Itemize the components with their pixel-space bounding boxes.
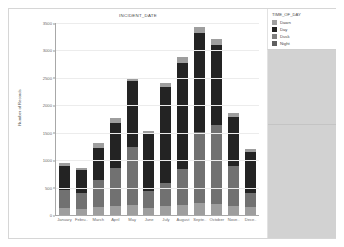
bar-segment-dawn[interactable] bbox=[110, 206, 121, 215]
gridline bbox=[56, 105, 259, 106]
legend-title: TIME_OF_DAY bbox=[272, 12, 332, 17]
bar-segment-day[interactable] bbox=[160, 87, 171, 182]
x-axis-tick-label: October bbox=[208, 217, 225, 222]
bar-segment-dawn[interactable] bbox=[194, 203, 205, 215]
gridline bbox=[56, 78, 259, 79]
viz-canvas: INCIDENT_DATE Number of Records 35003000… bbox=[0, 0, 344, 247]
bar-segment-night[interactable] bbox=[143, 191, 154, 208]
bar-segment-day[interactable] bbox=[194, 33, 205, 132]
bar-column[interactable] bbox=[59, 23, 70, 215]
y-axis-tick-label: 2000 bbox=[43, 103, 52, 108]
bar-segment-dawn[interactable] bbox=[59, 208, 70, 215]
legend-item[interactable]: Dawn bbox=[272, 20, 332, 25]
legend-item-label: Dawn bbox=[280, 20, 291, 25]
x-axis-tick-label: January bbox=[56, 217, 73, 222]
bar-segment-dawn[interactable] bbox=[228, 206, 239, 215]
y-axis-tick-label: 1000 bbox=[43, 158, 52, 163]
legend-item[interactable]: Night bbox=[272, 41, 332, 46]
bar-segment-dusk[interactable] bbox=[194, 27, 205, 34]
x-axis-tick-label: August bbox=[174, 217, 191, 222]
gridline bbox=[56, 50, 259, 51]
x-axis-tick-label: April bbox=[107, 217, 124, 222]
side-panel-divider bbox=[268, 124, 336, 125]
bar-column[interactable] bbox=[245, 23, 256, 215]
bar-segment-night[interactable] bbox=[228, 166, 239, 206]
bar-segment-dawn[interactable] bbox=[127, 205, 138, 215]
bar-group bbox=[56, 23, 259, 215]
bar-column[interactable] bbox=[93, 23, 104, 215]
bar-segment-day[interactable] bbox=[127, 81, 138, 147]
bar-segment-night[interactable] bbox=[93, 180, 104, 206]
bar-segment-dawn[interactable] bbox=[76, 209, 87, 215]
bar-segment-dawn[interactable] bbox=[177, 205, 188, 215]
gridline bbox=[56, 23, 259, 24]
gridline bbox=[56, 160, 259, 161]
bar-segment-day[interactable] bbox=[211, 45, 222, 125]
bar-column[interactable] bbox=[110, 23, 121, 215]
bar-segment-day[interactable] bbox=[143, 133, 154, 191]
y-axis-tick-label: 500 bbox=[45, 185, 52, 190]
x-axis-tick-label: June bbox=[141, 217, 158, 222]
legend-color-swatch bbox=[272, 34, 277, 39]
legend-item-label: Day bbox=[280, 27, 287, 32]
legend-item-label: Dusk bbox=[280, 34, 290, 39]
bar-column[interactable] bbox=[228, 23, 239, 215]
bar-segment-dawn[interactable] bbox=[160, 206, 171, 215]
bar-column[interactable] bbox=[76, 23, 87, 215]
bar-column[interactable] bbox=[160, 23, 171, 215]
visualization-frame: INCIDENT_DATE Number of Records 35003000… bbox=[8, 8, 336, 239]
bar-segment-day[interactable] bbox=[228, 117, 239, 165]
x-axis-labels: JanuaryFebru..MarchAprilMayJuneJulyAugus… bbox=[56, 217, 259, 231]
bar-segment-day[interactable] bbox=[177, 63, 188, 169]
y-axis-tick-label: 3500 bbox=[43, 21, 52, 26]
legend[interactable]: TIME_OF_DAY DawnDayDuskNight bbox=[267, 9, 336, 50]
bar-segment-night[interactable] bbox=[194, 132, 205, 203]
bar-column[interactable] bbox=[194, 23, 205, 215]
x-axis-tick-label: July bbox=[158, 217, 175, 222]
x-axis-tick-label: Septe.. bbox=[191, 217, 208, 222]
bar-column[interactable] bbox=[127, 23, 138, 215]
chart-panel: INCIDENT_DATE Number of Records 35003000… bbox=[9, 9, 267, 238]
bar-segment-night[interactable] bbox=[211, 125, 222, 205]
legend-color-swatch bbox=[272, 41, 277, 46]
x-axis-tick-label: Dece.. bbox=[242, 217, 259, 222]
y-axis-tick-label: 2500 bbox=[43, 75, 52, 80]
bar-segment-dawn[interactable] bbox=[93, 207, 104, 215]
y-axis-tick-label: 1500 bbox=[43, 130, 52, 135]
side-panel[interactable] bbox=[267, 50, 336, 238]
bar-column[interactable] bbox=[211, 23, 222, 215]
legend-item[interactable]: Day bbox=[272, 27, 332, 32]
legend-item-label: Night bbox=[280, 41, 290, 46]
y-axis-tick-label: 3000 bbox=[43, 48, 52, 53]
x-axis-tick-label: May bbox=[124, 217, 141, 222]
legend-color-swatch bbox=[272, 27, 277, 32]
y-axis-ticks: 3500300025002000150010005000 bbox=[31, 23, 55, 215]
y-axis-tick-label: 0 bbox=[50, 213, 52, 218]
bar-segment-dawn[interactable] bbox=[143, 208, 154, 215]
bar-segment-day[interactable] bbox=[76, 170, 87, 192]
bar-column[interactable] bbox=[143, 23, 154, 215]
bar-segment-night[interactable] bbox=[160, 183, 171, 206]
legend-color-swatch bbox=[272, 20, 277, 25]
plot-area[interactable] bbox=[56, 23, 259, 215]
x-axis-line bbox=[55, 215, 259, 216]
bar-segment-dawn[interactable] bbox=[245, 207, 256, 215]
x-axis-tick-label: Febru.. bbox=[73, 217, 90, 222]
legend-item-list: DawnDayDuskNight bbox=[272, 20, 332, 47]
bar-segment-night[interactable] bbox=[245, 193, 256, 207]
gridline bbox=[56, 188, 259, 189]
bar-column[interactable] bbox=[177, 23, 188, 215]
gridline bbox=[56, 133, 259, 134]
bar-segment-night[interactable] bbox=[76, 193, 87, 209]
bar-segment-day[interactable] bbox=[93, 148, 104, 181]
chart-title: INCIDENT_DATE bbox=[9, 13, 267, 18]
x-axis-tick-label: Nove.. bbox=[225, 217, 242, 222]
x-axis-tick-label: March bbox=[90, 217, 107, 222]
legend-item[interactable]: Dusk bbox=[272, 34, 332, 39]
bar-segment-night[interactable] bbox=[59, 190, 70, 208]
y-axis-title: Number of Records bbox=[17, 80, 22, 136]
bar-segment-dawn[interactable] bbox=[211, 204, 222, 215]
bar-segment-night[interactable] bbox=[127, 147, 138, 205]
